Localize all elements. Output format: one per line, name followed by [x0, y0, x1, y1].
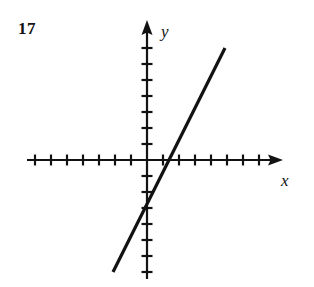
graph-figure: 17 — [0, 0, 314, 287]
x-axis-label: x — [280, 171, 289, 190]
coordinate-plane-graph: y x — [0, 0, 314, 287]
y-axis-label: y — [159, 22, 169, 41]
